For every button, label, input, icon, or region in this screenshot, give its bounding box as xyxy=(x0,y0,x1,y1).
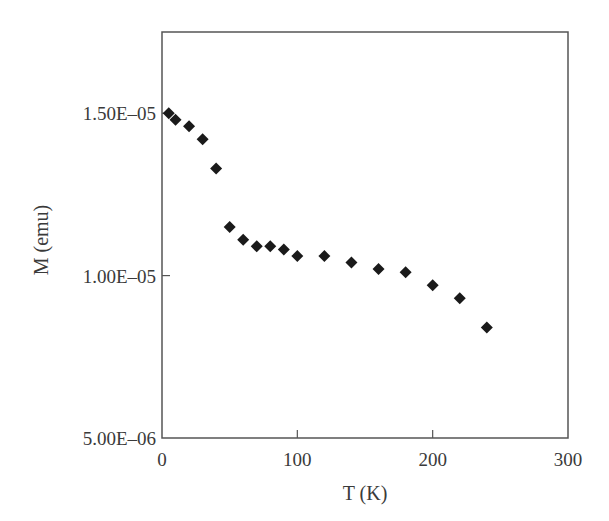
y-tick-label: 5.00E–06 xyxy=(83,428,156,449)
diamond-marker xyxy=(291,250,303,262)
plot-frame xyxy=(162,32,568,438)
diamond-marker xyxy=(373,263,385,275)
diamond-marker xyxy=(224,221,236,233)
diamond-marker xyxy=(481,322,493,334)
x-axis-ticks: 0100200300 xyxy=(157,430,582,470)
diamond-marker xyxy=(237,234,249,246)
y-axis-label: M (emu) xyxy=(30,205,53,276)
diamond-marker xyxy=(345,257,357,269)
diamond-marker xyxy=(210,162,222,174)
diamond-marker xyxy=(278,244,290,256)
diamond-marker xyxy=(427,279,439,291)
diamond-marker xyxy=(318,250,330,262)
x-tick-label: 200 xyxy=(418,449,447,470)
diamond-marker xyxy=(400,266,412,278)
x-tick-label: 300 xyxy=(554,449,583,470)
x-axis-label: T (K) xyxy=(343,482,388,505)
diamond-marker xyxy=(197,133,209,145)
y-tick-label: 1.50E–05 xyxy=(83,103,156,124)
diamond-marker xyxy=(183,120,195,132)
diamond-marker xyxy=(251,240,263,252)
data-points xyxy=(163,107,493,333)
x-tick-label: 0 xyxy=(157,449,167,470)
y-axis-ticks: 5.00E–061.00E–051.50E–05 xyxy=(83,103,170,449)
diamond-marker xyxy=(264,240,276,252)
magnetization-scatter-chart: 0100200300 5.00E–061.00E–051.50E–05 T (K… xyxy=(0,0,609,521)
diamond-marker xyxy=(454,292,466,304)
y-tick-label: 1.00E–05 xyxy=(83,266,156,287)
x-tick-label: 100 xyxy=(283,449,312,470)
